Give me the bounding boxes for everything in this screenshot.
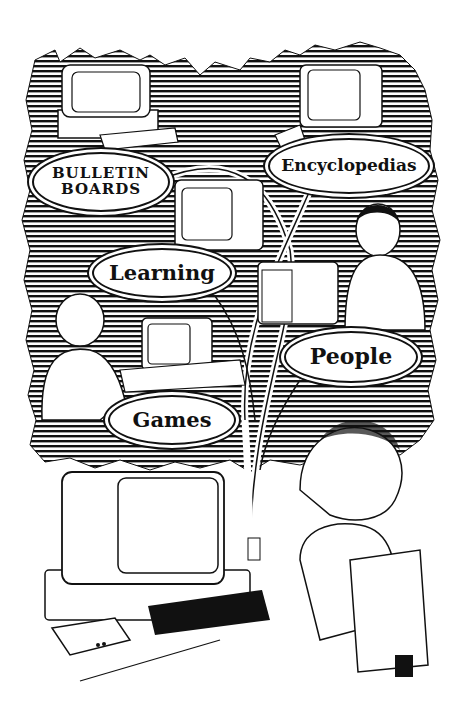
office-chair [350, 550, 428, 677]
encyclopedias-label: Encyclopedias [268, 138, 430, 194]
computer-middle [175, 180, 263, 250]
modem-box [52, 618, 130, 655]
games-text: Games [133, 409, 212, 431]
computer-right-middle [258, 262, 338, 324]
bulletin-boards-label: BULLETIN BOARDS [32, 152, 170, 212]
main-computer [45, 472, 270, 635]
people-text: People [310, 345, 392, 368]
games-label: Games [108, 395, 236, 445]
learning-label: Learning [92, 248, 232, 298]
learning-text: Learning [109, 262, 215, 284]
bulletin-boards-line2: BOARDS [61, 182, 141, 198]
encyclopedias-text: Encyclopedias [281, 157, 416, 175]
people-label: People [284, 331, 418, 383]
